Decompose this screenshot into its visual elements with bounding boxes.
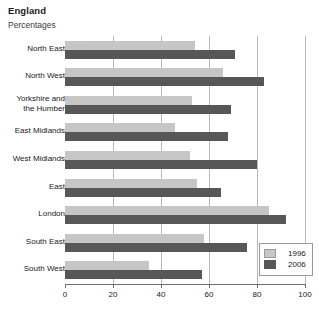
x-axis-line bbox=[65, 284, 306, 285]
bar-north-east-1996 bbox=[65, 41, 195, 50]
category-label-west-midlands: West Midlands bbox=[13, 154, 65, 164]
legend-item-2006: 2006 bbox=[264, 259, 306, 270]
gridline bbox=[257, 36, 258, 284]
category-label-yorkshire-and-the-humber: Yorkshire and the Humber bbox=[16, 94, 65, 114]
page-title: England bbox=[8, 5, 46, 16]
x-axis-tick bbox=[161, 284, 162, 288]
legend-item-1996: 1996 bbox=[264, 248, 306, 259]
legend-label-2006: 2006 bbox=[288, 260, 306, 269]
chart-container: England Percentages 19962006 02040608010… bbox=[0, 0, 319, 309]
x-axis-tick-label: 20 bbox=[98, 290, 128, 299]
x-axis-tick-label: 40 bbox=[146, 290, 176, 299]
chart-legend: 19962006 bbox=[259, 243, 313, 276]
bar-south-east-2006 bbox=[65, 243, 247, 252]
legend-label-1996: 1996 bbox=[288, 249, 306, 258]
bar-east-midlands-2006 bbox=[65, 132, 228, 141]
category-label-london: London bbox=[38, 209, 65, 219]
chart-subtitle: Percentages bbox=[8, 20, 56, 30]
legend-swatch-1996 bbox=[264, 249, 276, 258]
category-label-north-east: North East bbox=[27, 44, 65, 54]
bar-yorkshire-and-the-humber-1996 bbox=[65, 96, 192, 105]
bar-east-1996 bbox=[65, 179, 197, 188]
x-axis-tick bbox=[305, 284, 306, 288]
bar-north-east-2006 bbox=[65, 50, 235, 59]
bar-south-west-2006 bbox=[65, 270, 202, 279]
bar-west-midlands-2006 bbox=[65, 160, 257, 169]
bar-london-1996 bbox=[65, 206, 269, 215]
bar-south-west-1996 bbox=[65, 261, 149, 270]
bar-west-midlands-1996 bbox=[65, 151, 190, 160]
x-axis-tick bbox=[209, 284, 210, 288]
category-label-south-east: South East bbox=[26, 237, 65, 247]
bar-north-west-1996 bbox=[65, 68, 223, 77]
x-axis-tick bbox=[65, 284, 66, 288]
bar-east-2006 bbox=[65, 188, 221, 197]
category-label-east: East bbox=[49, 182, 65, 192]
category-label-south-west: South West bbox=[24, 264, 65, 274]
x-axis-tick bbox=[257, 284, 258, 288]
x-axis-tick-label: 0 bbox=[50, 290, 80, 299]
x-axis-tick bbox=[113, 284, 114, 288]
legend-swatch-2006 bbox=[264, 260, 276, 269]
bar-north-west-2006 bbox=[65, 77, 264, 86]
x-axis-tick-label: 80 bbox=[242, 290, 272, 299]
x-axis-tick-label: 60 bbox=[194, 290, 224, 299]
bar-south-east-1996 bbox=[65, 234, 204, 243]
bar-yorkshire-and-the-humber-2006 bbox=[65, 105, 231, 114]
category-label-east-midlands: East Midlands bbox=[15, 126, 65, 136]
x-axis-tick-label: 100 bbox=[290, 290, 319, 299]
bar-east-midlands-1996 bbox=[65, 123, 175, 132]
bar-london-2006 bbox=[65, 215, 286, 224]
category-label-north-west: North West bbox=[25, 71, 65, 81]
